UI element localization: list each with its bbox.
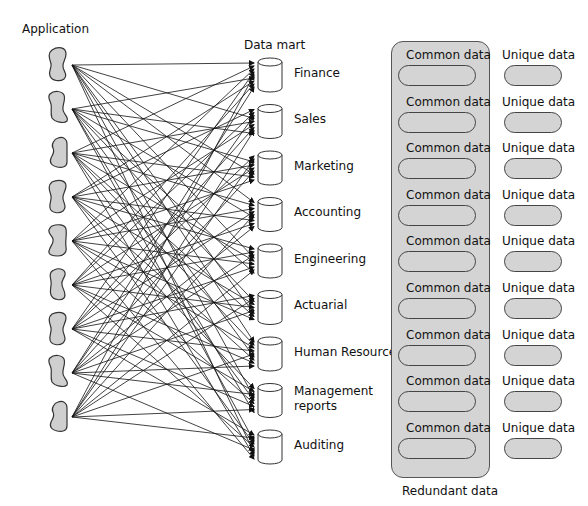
connection-arrow xyxy=(72,329,254,435)
mart-label-accounting: Accounting xyxy=(294,205,361,220)
unique-data-label: Unique data xyxy=(502,95,575,109)
common-data-pill xyxy=(398,112,476,133)
unique-data-label: Unique data xyxy=(502,421,575,435)
common-data-label: Common data xyxy=(406,421,491,435)
connection-arrow xyxy=(72,125,254,242)
unique-data-label: Unique data xyxy=(502,328,575,342)
database-cylinder-icon xyxy=(258,198,282,232)
mart-label-actuarial: Actuarial xyxy=(294,298,347,313)
application-blob-icon xyxy=(50,269,65,300)
application-blob-icon xyxy=(49,312,66,344)
mart-label-line1: Management xyxy=(294,384,373,399)
unique-data-pill xyxy=(504,298,562,319)
connection-arrow xyxy=(72,197,254,360)
connection-arrow xyxy=(72,373,254,450)
common-data-pill xyxy=(398,205,476,226)
common-data-label: Common data xyxy=(406,141,491,155)
connection-arrow xyxy=(72,255,254,373)
common-data-label: Common data xyxy=(406,374,491,388)
application-blob-icon xyxy=(49,91,68,122)
application-blob-icon xyxy=(50,401,67,431)
database-cylinder-icon xyxy=(258,105,282,139)
common-data-label: Common data xyxy=(406,328,491,342)
connection-arrow xyxy=(72,87,254,373)
unique-data-label: Unique data xyxy=(502,48,575,62)
common-data-pill xyxy=(398,345,476,366)
mart-label-management-reports: Management reports xyxy=(294,384,373,414)
unique-data-label: Unique data xyxy=(502,374,575,388)
application-blob-icon xyxy=(49,48,66,81)
connection-arrow xyxy=(72,410,254,418)
application-blob-icon xyxy=(50,137,67,167)
common-data-label: Common data xyxy=(406,281,491,295)
unique-data-label: Unique data xyxy=(502,188,575,202)
database-cylinder-icon xyxy=(258,58,282,92)
connection-arrow xyxy=(72,366,254,373)
connection-arrow xyxy=(72,417,254,438)
unique-data-label: Unique data xyxy=(502,141,575,155)
connection-arrow xyxy=(72,197,254,389)
mart-label-engineering: Engineering xyxy=(294,252,366,267)
unique-data-pill xyxy=(504,391,562,412)
mart-label-finance: Finance xyxy=(294,66,340,81)
common-data-label: Common data xyxy=(406,95,491,109)
unique-data-label: Unique data xyxy=(502,281,575,295)
common-data-pill xyxy=(398,251,476,272)
unique-data-pill xyxy=(504,205,562,226)
common-data-pill xyxy=(398,438,476,459)
common-data-label: Common data xyxy=(406,188,491,202)
common-data-pill xyxy=(398,65,476,86)
redundant-data-label: Redundant data xyxy=(402,484,498,498)
application-blob-icon xyxy=(49,180,66,212)
mart-label-sales: Sales xyxy=(294,112,326,127)
common-data-label: Common data xyxy=(406,48,491,62)
common-data-label: Common data xyxy=(406,234,491,248)
connection-arrow xyxy=(72,171,254,373)
unique-data-pill xyxy=(504,112,562,133)
database-cylinder-icon xyxy=(258,384,282,418)
database-cylinder-icon xyxy=(258,337,282,371)
common-data-pill xyxy=(398,158,476,179)
database-cylinder-icon xyxy=(258,244,282,278)
connection-arrow xyxy=(72,197,254,444)
mart-label-marketing: Marketing xyxy=(294,159,354,174)
mart-label-line2: reports xyxy=(294,399,373,414)
connection-arrow xyxy=(72,66,254,153)
mart-label-auditing: Auditing xyxy=(294,438,344,453)
unique-data-pill xyxy=(504,251,562,272)
mart-label-human-resources: Human Resources xyxy=(294,345,402,360)
connection-arrow xyxy=(72,212,254,330)
database-cylinder-icon xyxy=(258,151,282,185)
connection-arrow xyxy=(72,128,254,330)
unique-data-pill xyxy=(504,438,562,459)
common-data-pill xyxy=(398,298,476,319)
unique-data-pill xyxy=(504,345,562,366)
connection-arrow xyxy=(72,165,254,197)
application-blob-icon xyxy=(49,355,68,386)
connection-arrow xyxy=(72,373,254,395)
unique-data-label: Unique data xyxy=(502,234,575,248)
application-blob-icon xyxy=(49,225,66,256)
connection-arrow xyxy=(72,168,254,285)
database-cylinder-icon xyxy=(258,430,282,464)
connection-arrow xyxy=(72,63,254,65)
connection-arrow xyxy=(72,241,254,404)
unique-data-pill xyxy=(504,158,562,179)
unique-data-pill xyxy=(504,65,562,86)
database-cylinder-icon xyxy=(258,291,282,325)
common-data-pill xyxy=(398,391,476,412)
